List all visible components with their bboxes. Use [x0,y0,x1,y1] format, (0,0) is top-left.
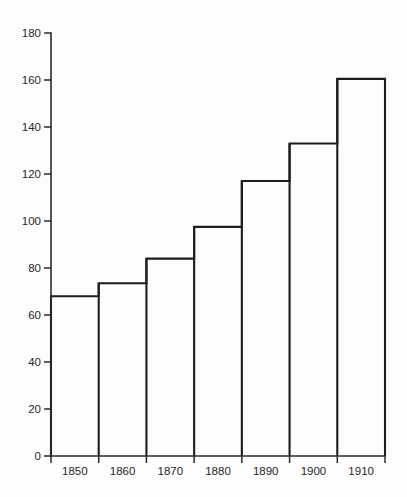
y-tick-label: 80 [28,262,41,274]
bar-1890[interactable]: 1890: 117 [242,181,290,456]
y-tick-label: 160 [22,74,41,86]
x-tick-label: 1870 [157,465,183,477]
x-tick-label: 1900 [301,465,327,477]
y-tick-label: 40 [28,356,41,368]
y-tick-label: 120 [22,168,41,180]
y-tick-label: 60 [28,309,41,321]
x-tick-label: 1890 [253,465,279,477]
chart-canvas: 020406080100120140160180 185018601870188… [0,0,407,497]
bar-1870[interactable]: 1870: 84 [146,259,194,456]
y-tick-label: 100 [22,215,41,227]
y-tick-label: 180 [22,27,41,39]
y-tick-label: 20 [28,403,41,415]
bar-1900[interactable]: 1900: 133 [290,143,338,456]
x-tick-label: 1860 [110,465,136,477]
bar-1880[interactable]: 1880: 97.5 [194,227,242,456]
x-tick-label: 1880 [205,465,231,477]
y-tick-label: 140 [22,121,41,133]
bar-1850[interactable]: 1850: 68 [51,296,99,456]
x-tick-label: 1910 [348,465,374,477]
bar-1910[interactable]: 1910: 160.5 [337,79,385,456]
x-tick-label: 1850 [62,465,88,477]
y-tick-label: 0 [35,450,41,462]
bar-chart-figure: 020406080100120140160180 185018601870188… [0,0,407,497]
bar-1860[interactable]: 1860: 73.5 [99,283,147,456]
